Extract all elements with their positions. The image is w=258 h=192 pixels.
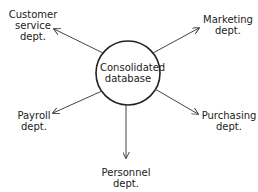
node-label: Purchasing [200, 110, 258, 121]
node-label: dept. [200, 121, 258, 132]
arrow-to-payroll [53, 91, 102, 113]
node-personnel: Personnel dept. [100, 167, 152, 189]
diagram-canvas: Consolidated database Customer service d… [0, 0, 258, 192]
node-label: dept. [198, 25, 258, 36]
arrow-to-marketing [153, 28, 199, 53]
node-label: dept. [100, 178, 152, 189]
node-label: Personnel [100, 167, 152, 178]
center-label: Consolidated database [100, 62, 156, 84]
arrow-to-customer [54, 29, 103, 53]
node-payroll: Payroll dept. [14, 110, 54, 132]
node-customer: Customer service dept. [8, 9, 58, 42]
node-label: dept. [8, 31, 58, 42]
node-label: Customer [8, 9, 58, 20]
center-label-line2: database [100, 73, 156, 84]
center-label-line1: Consolidated [100, 62, 156, 73]
node-label: Payroll [14, 110, 54, 121]
node-label: dept. [14, 121, 54, 132]
arrow-to-purchasing [155, 89, 198, 114]
node-marketing: Marketing dept. [198, 14, 258, 36]
node-label: service [8, 20, 58, 31]
node-label: Marketing [198, 14, 258, 25]
node-purchasing: Purchasing dept. [200, 110, 258, 132]
